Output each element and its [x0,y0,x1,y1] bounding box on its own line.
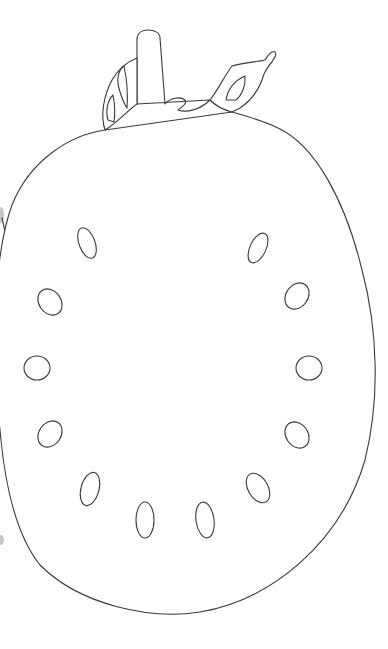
seed [24,356,50,380]
drawing-canvas: tomato cross-section line drawing [0,0,388,649]
edge-smudge-bottom [0,535,4,545]
edge-smudge-top [0,207,4,223]
seed [296,356,322,380]
seed [136,502,154,538]
tomato-drawing [0,0,388,649]
stem [137,30,210,111]
